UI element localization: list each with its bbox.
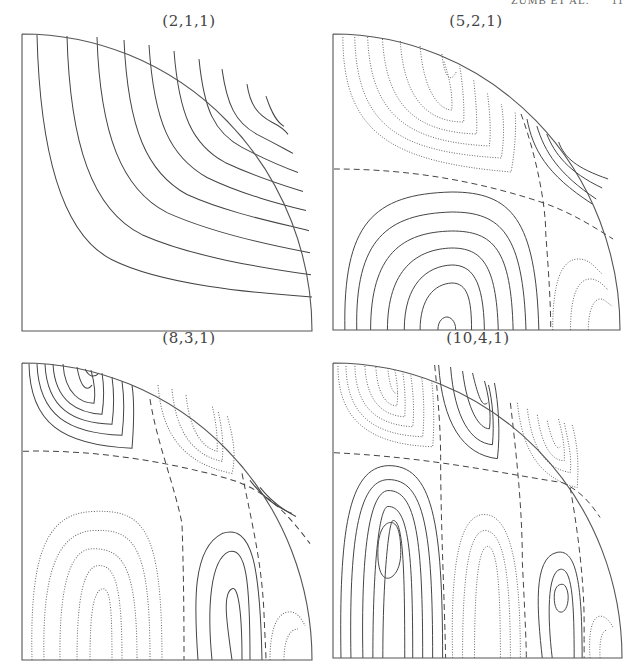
solid-contour-line <box>260 487 296 516</box>
contour-lines <box>334 365 613 658</box>
solid-contour-line <box>527 119 592 204</box>
dashed-contour-line <box>242 473 266 660</box>
domain-boundary <box>22 34 312 331</box>
dotted-contour-line <box>553 259 602 330</box>
dotted-contour-line <box>270 612 305 660</box>
solid-contour-line <box>124 40 309 231</box>
solid-contour-line <box>420 283 471 330</box>
solid-contour-line <box>383 520 405 658</box>
contour-plot <box>333 34 620 330</box>
dotted-contour-line <box>517 403 578 488</box>
domain-boundary <box>22 363 312 660</box>
dotted-contour-line <box>284 629 298 660</box>
solid-contour-line <box>149 45 306 211</box>
panel-title: (10,4,1) <box>378 329 578 347</box>
contour-lines <box>37 35 312 297</box>
solid-contour-line <box>266 96 284 126</box>
solid-contour-line <box>404 265 484 330</box>
contour-plot <box>22 363 312 660</box>
solid-contour-line <box>363 491 423 658</box>
contour-panel-1: (2,1,1) <box>22 34 312 331</box>
panel-title: (8,3,1) <box>89 329 289 347</box>
dotted-contour-line <box>44 530 150 660</box>
contour-plot <box>22 34 312 331</box>
solid-contour-line <box>341 466 443 658</box>
dotted-contour-line <box>90 589 112 660</box>
solid-contour-line <box>67 36 311 275</box>
dotted-contour-line <box>77 566 122 660</box>
dotted-contour-line <box>588 299 612 330</box>
solid-contour-line <box>174 51 303 191</box>
dotted-contour-line <box>355 37 504 158</box>
solid-contour-line <box>373 506 413 658</box>
running-head: ZUMB ET AL.11 <box>511 0 624 6</box>
solid-contour-line <box>387 248 498 330</box>
dotted-contour-line <box>32 511 162 660</box>
dotted-contour-line <box>571 279 609 330</box>
dashed-contour-line <box>150 399 184 660</box>
contour-panel-2: (5,2,1) <box>333 34 620 330</box>
solid-contour-line <box>559 142 608 179</box>
solid-contour-line <box>37 35 312 297</box>
dotted-contour-line <box>346 366 424 437</box>
dotted-contour-line <box>527 409 570 473</box>
running-title: ZUMB ET AL. <box>511 0 589 6</box>
dashed-contour-line <box>435 365 446 658</box>
solid-contour-line <box>473 373 488 404</box>
dotted-contour-line <box>600 630 607 658</box>
dotted-contour-line <box>475 546 501 658</box>
page-number: 11 <box>611 0 624 6</box>
contour-plot <box>333 363 622 658</box>
dotted-contour-line <box>365 366 405 417</box>
dotted-contour-line <box>368 37 491 146</box>
dotted-contour-line <box>376 367 398 406</box>
solid-contour-line <box>463 371 491 429</box>
solid-contour-line <box>247 84 288 134</box>
solid-contour-line <box>29 364 134 448</box>
contour-lines <box>334 37 613 330</box>
solid-contour-line <box>226 588 242 660</box>
dotted-contour-line <box>343 37 516 172</box>
dotted-contour-line <box>463 530 511 658</box>
contour-panel-3: (8,3,1) <box>22 363 312 660</box>
solid-contour-line <box>538 552 582 658</box>
dashed-contour-line <box>23 451 310 544</box>
dotted-contour-line <box>60 549 137 660</box>
solid-contour-line <box>357 212 526 330</box>
domain-boundary <box>333 363 622 658</box>
contour-lines <box>23 364 310 660</box>
contour-panel-4: (10,4,1) <box>333 363 622 658</box>
solid-contour-line <box>549 569 574 658</box>
solid-contour-line <box>537 126 596 199</box>
dotted-contour-line <box>158 385 234 473</box>
dashed-contour-line <box>510 403 526 658</box>
solid-contour-line <box>554 584 568 612</box>
panel-title: (2,1,1) <box>89 12 289 30</box>
dotted-contour-line <box>355 366 414 427</box>
dotted-contour-line <box>400 41 464 122</box>
dotted-contour-line <box>420 46 452 110</box>
dotted-contour-line <box>547 421 560 448</box>
panel-title: (5,2,1) <box>376 12 576 30</box>
dotted-contour-line <box>338 366 434 447</box>
solid-contour-line <box>63 364 95 403</box>
